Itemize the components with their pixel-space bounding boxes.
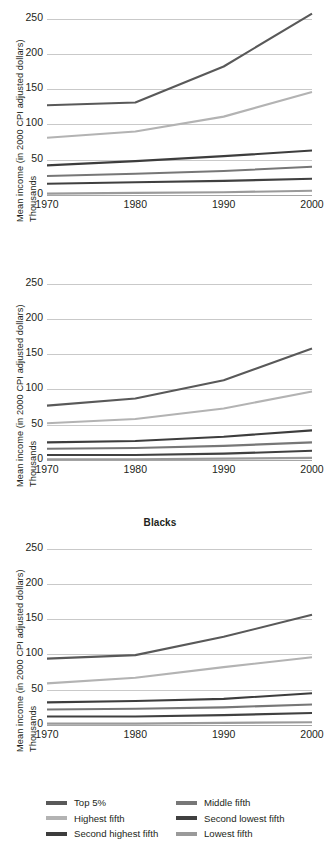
x-axis-tick-label: 1990 bbox=[212, 463, 235, 475]
legend-color-swatch bbox=[46, 816, 67, 820]
legend-color-swatch bbox=[46, 801, 67, 805]
series-layer bbox=[47, 10, 312, 197]
chart-title-2: Blacks bbox=[0, 517, 320, 528]
y-axis-title-line1: Mean income (in 2000 CPI adjusted dollar… bbox=[15, 304, 25, 487]
x-axis-tick-label: 2000 bbox=[300, 728, 323, 740]
legend-item[interactable]: Middle fifth bbox=[176, 795, 285, 811]
x-axis-tick-label: 1990 bbox=[212, 198, 235, 210]
y-axis-tick-label: 250 bbox=[25, 541, 43, 553]
x-axis-tick-label: 2000 bbox=[300, 198, 323, 210]
x-axis-tick-label: 1970 bbox=[35, 198, 58, 210]
legend-column-right: Middle fifthSecond lowest fifthLowest fi… bbox=[176, 795, 285, 842]
y-axis-tick-label: 200 bbox=[25, 46, 43, 58]
series-line bbox=[47, 430, 312, 442]
plot-container-1: Mean income (in 2000 CPI adjusted dollar… bbox=[0, 0, 320, 232]
series-line bbox=[47, 705, 312, 710]
x-axis-tick-label: 1980 bbox=[124, 198, 147, 210]
series-line bbox=[47, 713, 312, 717]
x-axis-tick-label: 2000 bbox=[300, 463, 323, 475]
series-line bbox=[47, 191, 312, 194]
legend-item-label: Highest fifth bbox=[74, 813, 125, 824]
series-line bbox=[47, 92, 312, 138]
legend-item-label: Top 5% bbox=[74, 797, 106, 808]
legend-item[interactable]: Second highest fifth bbox=[46, 826, 158, 842]
y-axis-tick-label: 200 bbox=[25, 311, 43, 323]
plot-container-2: Mean income (in 2000 CPI adjusted dollar… bbox=[0, 265, 320, 497]
x-axis-tick-label: 1970 bbox=[35, 463, 58, 475]
series-line bbox=[47, 442, 312, 448]
y-axis-tick-label: 100 bbox=[25, 381, 43, 393]
legend-item[interactable]: Lowest fifth bbox=[176, 826, 285, 842]
y-axis-tick-label: 150 bbox=[25, 346, 43, 358]
legend-color-swatch bbox=[176, 832, 197, 836]
legend-item-label: Second highest fifth bbox=[74, 828, 158, 839]
y-axis-tick-label: 50 bbox=[31, 152, 43, 164]
legend-item[interactable]: Second lowest fifth bbox=[176, 811, 285, 827]
legend-item-label: Second lowest fifth bbox=[204, 813, 285, 824]
y-axis-title-line1: Mean income (in 2000 CPI adjusted dollar… bbox=[15, 39, 25, 222]
series-line bbox=[47, 722, 312, 723]
series-layer bbox=[47, 540, 312, 727]
series-line bbox=[47, 151, 312, 166]
series-line bbox=[47, 657, 312, 683]
legend-item-label: Lowest fifth bbox=[204, 828, 253, 839]
chart-panel-1: Mean income (in 2000 CPI adjusted dollar… bbox=[0, 0, 320, 232]
series-line bbox=[47, 392, 312, 424]
series-line bbox=[47, 179, 312, 184]
legend-item[interactable]: Highest fifth bbox=[46, 811, 158, 827]
series-line bbox=[47, 451, 312, 455]
legend-color-swatch bbox=[46, 832, 67, 836]
x-axis-tick-label: 1970 bbox=[35, 728, 58, 740]
series-line bbox=[47, 458, 312, 459]
y-axis-tick-label: 250 bbox=[25, 276, 43, 288]
series-line bbox=[47, 14, 312, 106]
chart-panel-2: Mean income (in 2000 CPI adjusted dollar… bbox=[0, 265, 320, 497]
plot-area-3: 0501001502002501970198019902000 bbox=[47, 540, 312, 725]
y-axis-tick-label: 100 bbox=[25, 646, 43, 658]
y-axis-tick-label: 150 bbox=[25, 81, 43, 93]
legend-color-swatch bbox=[176, 801, 197, 805]
plot-container-3: Mean income (in 2000 CPI adjusted dollar… bbox=[0, 530, 320, 762]
series-line bbox=[47, 348, 312, 405]
series-layer bbox=[47, 275, 312, 462]
chart-legend: Top 5%Highest fifthSecond highest fifth … bbox=[0, 795, 320, 842]
legend-item[interactable]: Top 5% bbox=[46, 795, 158, 811]
series-line bbox=[47, 167, 312, 176]
y-axis-tick-label: 50 bbox=[31, 682, 43, 694]
series-line bbox=[47, 615, 312, 659]
y-axis-tick-label: 100 bbox=[25, 116, 43, 128]
series-line bbox=[47, 693, 312, 702]
x-axis-tick-label: 1990 bbox=[212, 728, 235, 740]
y-axis-title-line1: Mean income (in 2000 CPI adjusted dollar… bbox=[15, 569, 25, 752]
legend-column-left: Top 5%Highest fifthSecond highest fifth bbox=[46, 795, 158, 842]
plot-area-2: 0501001502002501970198019902000 bbox=[47, 275, 312, 460]
y-axis-tick-label: 150 bbox=[25, 611, 43, 623]
x-axis-tick-label: 1980 bbox=[124, 728, 147, 740]
x-axis-tick-label: 1980 bbox=[124, 463, 147, 475]
plot-area-1: 0501001502002501970198019902000 bbox=[47, 10, 312, 195]
chart-panel-3: Mean income (in 2000 CPI adjusted dollar… bbox=[0, 530, 320, 762]
legend-item-label: Middle fifth bbox=[204, 797, 250, 808]
legend-color-swatch bbox=[176, 816, 197, 820]
y-axis-tick-label: 250 bbox=[25, 11, 43, 23]
y-axis-tick-label: 50 bbox=[31, 417, 43, 429]
y-axis-tick-label: 200 bbox=[25, 576, 43, 588]
